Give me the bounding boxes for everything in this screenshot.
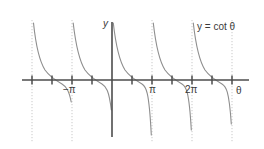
equation-label: y = cot θ [197,22,235,32]
x-tick-label-2pi: 2π [185,85,197,95]
curve-branch-2pi-3pi [193,23,231,124]
x-tick-label-pi: π [149,85,156,95]
x-axis-label: θ [236,86,242,96]
x-tick-label-neg-pi: −π [63,85,76,95]
cotangent-graph-figure: −π π 2π y θ y = cot θ [0,0,264,149]
y-axis-label: y [103,19,108,29]
curve-branch-negpi-zero [73,23,111,110]
